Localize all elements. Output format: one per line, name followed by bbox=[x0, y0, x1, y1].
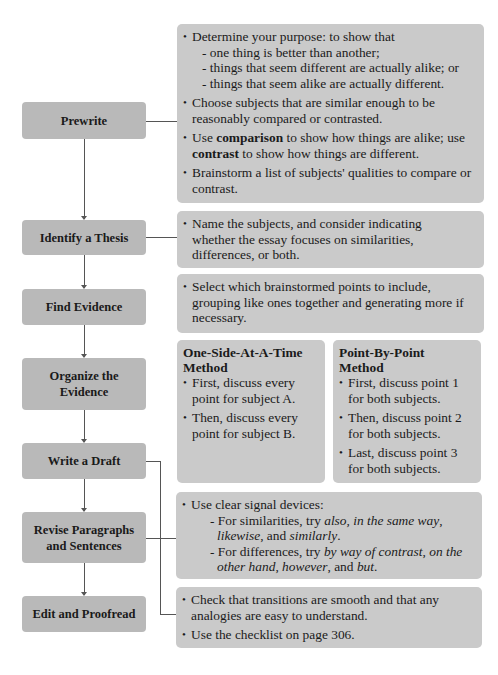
panel-revise: Use clear signal devices: - For similari… bbox=[176, 492, 482, 579]
connector-prewrite-panel bbox=[146, 121, 177, 122]
connector-draft-edit-panel bbox=[160, 614, 176, 615]
bullet: First, discuss every point for subject A… bbox=[183, 375, 319, 406]
connector-draft-branch-vertical bbox=[160, 461, 161, 615]
sub-item: - one thing is better than another; bbox=[192, 45, 478, 61]
bullet: Then, discuss every point for subject B. bbox=[183, 410, 319, 441]
method-title: One-Side-At-A-Time Method bbox=[183, 345, 319, 375]
bullet: Last, discuss point 3 for both subjects. bbox=[339, 445, 475, 476]
panel-one-side-method: One-Side-At-A-Time Method First, discuss… bbox=[177, 340, 325, 483]
step-label: Find Evidence bbox=[46, 299, 123, 315]
panel-edit: Check that transitions are smooth and th… bbox=[176, 587, 482, 648]
step-organize-evidence: Organize the Evidence bbox=[22, 358, 146, 410]
sub-item-differences: - For differences, try by way of contras… bbox=[191, 544, 476, 575]
sub-item-similarities: - For similarities, try also, in the sam… bbox=[191, 513, 476, 544]
bullet: Use clear signal devices: - For similari… bbox=[182, 497, 476, 575]
connector-evidence-organize bbox=[84, 325, 85, 357]
panel-evidence: Select which brainstormed points to incl… bbox=[177, 274, 484, 333]
step-label: Prewrite bbox=[61, 113, 107, 129]
step-label-line1: Organize the bbox=[49, 368, 118, 384]
panel-point-by-point-method: Point-By-Point Method First, discuss poi… bbox=[333, 340, 481, 483]
bullet: First, discuss point 1 for both subjects… bbox=[339, 375, 475, 406]
bullet: Determine your purpose: to show that - o… bbox=[183, 29, 478, 91]
connector-organize-draft bbox=[84, 410, 85, 442]
bullet: Use comparison to show how things are al… bbox=[183, 130, 478, 161]
panel-thesis: Name the subjects, and consider indicati… bbox=[177, 211, 484, 268]
connector-thesis-panel bbox=[146, 237, 177, 238]
step-label-line1: Revise Paragraphs bbox=[34, 522, 134, 538]
bullet: Choose subjects that are similar enough … bbox=[183, 95, 478, 126]
step-label: Edit and Proofread bbox=[32, 606, 135, 622]
step-label-line2: Evidence bbox=[60, 384, 109, 400]
bullet: Name the subjects, and consider indicati… bbox=[183, 216, 478, 263]
connector-draft-branch bbox=[146, 461, 160, 462]
connector-revise-panel bbox=[146, 538, 176, 539]
step-prewrite: Prewrite bbox=[22, 102, 146, 139]
connector-prewrite-thesis bbox=[84, 139, 85, 219]
connector-revise-edit bbox=[84, 563, 85, 595]
step-find-evidence: Find Evidence bbox=[22, 289, 146, 325]
step-identify-thesis: Identify a Thesis bbox=[22, 220, 146, 255]
connector-thesis-evidence bbox=[84, 255, 85, 288]
bullet: Check that transitions are smooth and th… bbox=[182, 592, 476, 623]
step-revise: Revise Paragraphs and Sentences bbox=[22, 512, 146, 563]
bullet: Select which brainstormed points to incl… bbox=[183, 279, 478, 326]
step-edit-proofread: Edit and Proofread bbox=[22, 596, 146, 632]
step-write-draft: Write a Draft bbox=[22, 443, 146, 479]
connector-draft-revise bbox=[84, 479, 85, 511]
bullet: Use the checklist on page 306. bbox=[182, 627, 476, 643]
panel-prewrite: Determine your purpose: to show that - o… bbox=[177, 24, 484, 203]
sub-item: - things that seem different are actuall… bbox=[192, 60, 478, 76]
sub-item: - things that seem alike are actually di… bbox=[192, 76, 478, 92]
step-label: Write a Draft bbox=[48, 453, 121, 469]
step-label: Identify a Thesis bbox=[40, 230, 129, 246]
bullet: Brainstorm a list of subjects' qualities… bbox=[183, 165, 478, 196]
method-title: Point-By-Point Method bbox=[339, 345, 475, 375]
step-label-line2: and Sentences bbox=[46, 538, 121, 554]
bullet: Then, discuss point 2 for both subjects. bbox=[339, 410, 475, 441]
